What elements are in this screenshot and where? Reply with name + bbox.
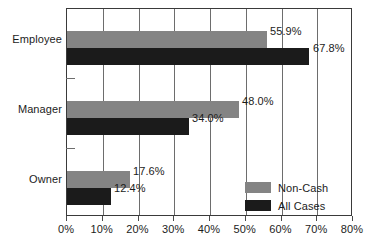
category-label-employee: Employee xyxy=(0,33,62,45)
xtick-20 xyxy=(138,216,139,221)
value-label-employee-noncash: 55.9% xyxy=(270,25,302,37)
xtick-30 xyxy=(173,216,174,221)
category-label-manager-text: Manager xyxy=(18,103,62,115)
value-label-manager-noncash: 48.0% xyxy=(242,95,274,107)
value-label-employee-allcases: 67.8% xyxy=(313,42,345,54)
chart-legend: Non-Cash All Cases xyxy=(245,180,328,216)
xlabel-50: 50% xyxy=(225,223,265,235)
bar-manager-allcases xyxy=(67,118,189,135)
category-axis-tick-2 xyxy=(66,148,75,149)
xlabel-0: 0% xyxy=(46,223,86,235)
xtick-60 xyxy=(281,216,282,221)
legend-label-noncash: Non-Cash xyxy=(278,182,328,194)
xtick-70 xyxy=(316,216,317,221)
category-axis-tick-1 xyxy=(66,78,75,79)
value-label-owner-noncash: 17.6% xyxy=(133,165,165,177)
xlabel-40: 40% xyxy=(189,223,229,235)
xtick-0 xyxy=(66,216,67,221)
bar-employee-allcases xyxy=(67,48,309,65)
category-label-owner-text: Owner xyxy=(29,173,62,185)
bar-owner-allcases xyxy=(67,188,111,205)
bar-chart: Employee Manager Owner 55.9% 67.8% 48.0%… xyxy=(0,0,368,245)
xlabel-70: 70% xyxy=(296,223,336,235)
legend-swatch-noncash-icon xyxy=(245,182,271,193)
xtick-40 xyxy=(209,216,210,221)
category-label-owner: Owner xyxy=(0,173,62,185)
xtick-50 xyxy=(245,216,246,221)
category-label-manager: Manager xyxy=(0,103,62,115)
xlabel-80: 80% xyxy=(332,223,368,235)
value-label-owner-allcases: 12.4% xyxy=(114,182,146,194)
legend-swatch-allcases-icon xyxy=(245,200,271,211)
xlabel-60: 60% xyxy=(261,223,301,235)
bar-employee-noncash xyxy=(67,31,267,48)
xtick-10 xyxy=(102,216,103,221)
xtick-80 xyxy=(352,216,353,221)
legend-item-allcases: All Cases xyxy=(245,198,328,213)
legend-label-allcases: All Cases xyxy=(278,200,325,212)
xlabel-10: 10% xyxy=(82,223,122,235)
value-label-manager-allcases: 34.0% xyxy=(192,112,224,124)
legend-item-noncash: Non-Cash xyxy=(245,180,328,195)
category-label-employee-text: Employee xyxy=(12,33,62,45)
xlabel-20: 20% xyxy=(118,223,158,235)
xlabel-30: 30% xyxy=(153,223,193,235)
